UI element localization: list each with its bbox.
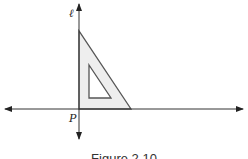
line-label-l: ℓ	[69, 7, 74, 20]
figure-diagram: ℓ P Figure 2.10	[0, 0, 248, 159]
point-label-p: P	[68, 112, 77, 125]
figure-caption: Figure 2.10	[91, 151, 157, 159]
set-square-triangle	[79, 31, 131, 109]
